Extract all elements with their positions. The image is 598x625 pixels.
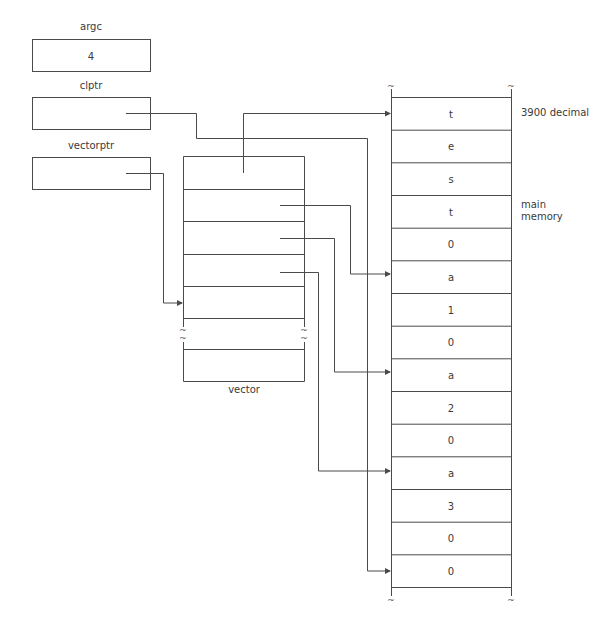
vector-break-right-2: ~ — [300, 334, 308, 343]
argc-value: 4 — [88, 51, 94, 62]
memory-cell: 0 — [448, 533, 454, 544]
memory-break-top-left: ~ — [387, 82, 395, 91]
memory-address-label: 3900 decimal — [521, 107, 589, 118]
memory-break-bottom-left: ~ — [387, 596, 395, 605]
pointer-diagram — [0, 0, 598, 625]
argc-label: argc — [80, 21, 102, 32]
memory-cell: 1 — [448, 305, 454, 316]
memory-cell: 2 — [448, 403, 454, 414]
vectorptr-label: vectorptr — [68, 140, 114, 151]
memory-cell: t — [449, 109, 453, 120]
memory-break-bottom-right: ~ — [507, 596, 515, 605]
clptr-label: clptr — [80, 80, 103, 91]
clptr-pointer-arrow — [126, 114, 390, 572]
main-memory-label-line2: memory — [521, 211, 563, 222]
memory-cell: s — [448, 174, 453, 185]
memory-cell: a — [448, 370, 454, 381]
memory-cell: 3 — [448, 501, 454, 512]
memory-cell: 0 — [448, 435, 454, 446]
memory-cell: 0 — [448, 239, 454, 250]
vectorptr-pointer-arrow — [126, 174, 182, 304]
memory-cell: 0 — [448, 337, 454, 348]
main-memory-label-line1: main — [521, 199, 546, 210]
vector-0-pointer-arrow — [244, 114, 391, 174]
vector-2-pointer-arrow — [280, 239, 390, 373]
memory-break-top-right: ~ — [507, 82, 515, 91]
vector-break-left-2: ~ — [179, 334, 187, 343]
memory-cell: 0 — [448, 566, 454, 577]
memory-cell: e — [448, 141, 454, 152]
memory-cell: a — [448, 272, 454, 283]
vector-array — [184, 157, 305, 382]
vector-label: vector — [228, 384, 260, 395]
memory-cell: a — [448, 468, 454, 479]
memory-cell: t — [449, 207, 453, 218]
